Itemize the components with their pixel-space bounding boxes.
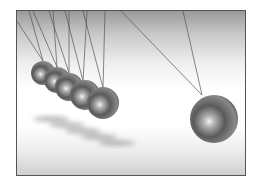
newtons-cradle-photo <box>16 10 246 176</box>
shadows <box>33 116 135 146</box>
balls <box>31 61 238 143</box>
newtons-cradle-illustration <box>17 11 246 176</box>
